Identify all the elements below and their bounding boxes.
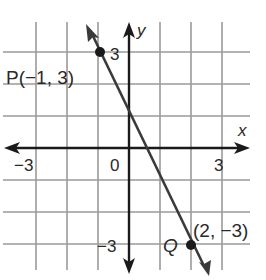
point-q-coords: (2, −3): [193, 220, 248, 241]
point-q-letter: Q: [163, 235, 178, 256]
x-axis: [4, 142, 250, 154]
y-axis-label: y: [136, 21, 147, 40]
tick-origin: 0: [110, 156, 119, 175]
line-up-arrow-icon: [86, 24, 99, 42]
x-axis-label: x: [237, 121, 247, 140]
coordinate-plane: y x 3 P(−1, 3) −3 0 3 −3 Q (2, −3): [0, 0, 266, 280]
line-down-arrow-icon: [199, 260, 211, 276]
tick-y-3: 3: [110, 45, 119, 64]
point-q: [186, 240, 196, 250]
tick-x-3: 3: [214, 156, 223, 175]
point-p-label: P(−1, 3): [6, 67, 74, 88]
point-p: [95, 47, 105, 57]
tick-y-neg3: −3: [97, 237, 116, 256]
tick-x-neg3: −3: [14, 156, 33, 175]
